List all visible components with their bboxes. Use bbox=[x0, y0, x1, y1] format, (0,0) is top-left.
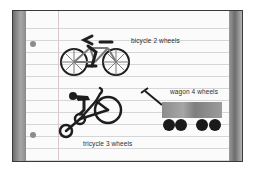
tricycle-icon bbox=[0, 0, 256, 178]
tricycle-label: tricycle 3 wheels bbox=[83, 140, 132, 147]
